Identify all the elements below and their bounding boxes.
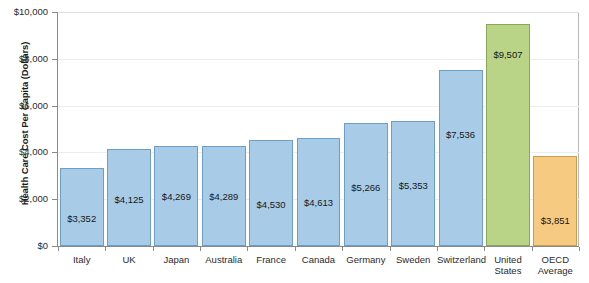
y-tick-label: $0 [0,240,48,251]
y-tick-label: $4,000 [0,146,48,157]
x-axis-category-label: Germany [342,254,389,265]
x-axis-category-label-line: Sweden [390,254,437,265]
y-tick-mark [52,152,57,153]
y-tick-mark [52,246,57,247]
bar-value-label: $7,536 [440,129,482,140]
y-tick-mark [52,199,57,200]
x-axis-category-label: Japan [153,254,200,265]
x-axis-category-label: Italy [58,254,105,265]
bar-value-label: $3,352 [61,213,103,224]
x-axis-category-label-line: Switzerland [437,254,484,265]
x-axis-category-label-line: Average [532,265,579,276]
x-tick-mark [295,247,296,251]
bar[interactable]: $4,269 [154,146,198,246]
x-tick-mark [153,247,154,251]
bar[interactable]: $4,530 [249,140,293,246]
bar[interactable]: $4,289 [202,146,246,246]
x-axis-category-label-line: States [484,265,531,276]
x-axis-category-label: UnitedStates [484,254,531,276]
x-tick-mark [342,247,343,251]
bar[interactable]: $4,613 [297,138,341,246]
bar-value-label: $9,507 [487,49,529,60]
bar-value-label: $5,353 [392,180,434,191]
x-tick-mark [200,247,201,251]
x-tick-mark [484,247,485,251]
bar-value-label: $4,613 [298,197,340,208]
x-axis-category-label: Australia [200,254,247,265]
x-axis-category-label: OECDAverage [532,254,579,276]
bar-value-label: $4,289 [203,191,245,202]
x-tick-mark [58,247,59,251]
x-axis-category-label-line: Germany [342,254,389,265]
bar-chart: Health Care Cost Per Capita (Dollars) $0… [0,0,589,283]
x-tick-mark [579,247,580,251]
bar[interactable]: $4,125 [107,149,151,246]
y-tick-label: $10,000 [0,6,48,17]
y-tick-label: $6,000 [0,100,48,111]
x-axis-category-label-line: Canada [295,254,342,265]
y-tick-mark [52,106,57,107]
bar-value-label: $5,266 [345,182,387,193]
bar-value-label: $4,530 [250,199,292,210]
y-tick-mark [52,12,57,13]
bar[interactable]: $5,266 [344,123,388,246]
y-tick-mark [52,59,57,60]
x-axis-category-label-line: Japan [153,254,200,265]
x-tick-mark [532,247,533,251]
x-axis-category-label: France [247,254,294,265]
x-tick-mark [437,247,438,251]
bar[interactable]: $3,851 [533,156,577,246]
x-axis-category-label-line: OECD [532,254,579,265]
x-tick-mark [105,247,106,251]
x-tick-mark [390,247,391,251]
bars-layer: $3,352$4,125$4,269$4,289$4,530$4,613$5,2… [58,12,579,246]
bar[interactable]: $3,352 [60,168,104,246]
x-axis-category-label-line: Italy [58,254,105,265]
y-tick-label: $8,000 [0,53,48,64]
bar-value-label: $4,125 [108,194,150,205]
bar[interactable]: $7,536 [439,70,483,246]
x-axis-line [58,246,579,247]
x-axis-category-label-line: France [247,254,294,265]
x-axis-category-label-line: United [484,254,531,265]
x-tick-mark [247,247,248,251]
x-axis-category-label: Sweden [390,254,437,265]
bar-value-label: $4,269 [155,191,197,202]
x-axis-category-label-line: Australia [200,254,247,265]
bar[interactable]: $5,353 [391,121,435,246]
x-axis-category-label-line: UK [105,254,152,265]
y-axis-title: Health Care Cost Per Capita (Dollars) [19,4,30,244]
bar-value-label: $3,851 [534,215,576,226]
y-tick-label: $2,000 [0,193,48,204]
x-axis-category-label: UK [105,254,152,265]
x-axis-category-label: Switzerland [437,254,484,265]
x-axis-category-label: Canada [295,254,342,265]
bar[interactable]: $9,507 [486,24,530,246]
